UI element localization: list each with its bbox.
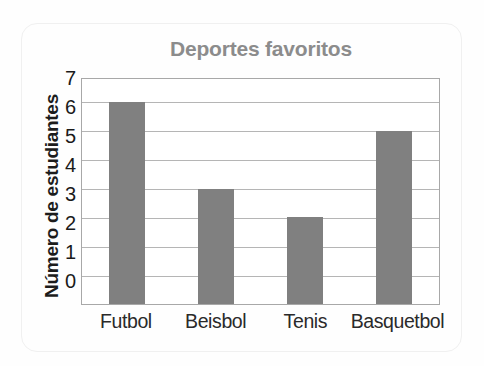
bar-slot-futbol bbox=[82, 79, 171, 304]
y-axis-tick-labels: 7 6 5 4 3 2 1 0 bbox=[52, 78, 76, 305]
x-tick-label-beisbol: Beisbol bbox=[171, 310, 260, 333]
bar-slot-beisbol bbox=[171, 79, 260, 304]
y-tick-label: 5 bbox=[54, 126, 76, 146]
x-tick-label-basquetbol: Basquetbol bbox=[351, 310, 440, 333]
bar-slot-tenis bbox=[261, 79, 350, 304]
y-tick-label: 3 bbox=[54, 184, 76, 204]
y-tick-label: 7 bbox=[54, 68, 76, 88]
bars-layer bbox=[82, 79, 439, 304]
y-tick-label: 4 bbox=[54, 155, 76, 175]
bar-slot-basquetbol bbox=[350, 79, 439, 304]
bar-basquetbol[interactable] bbox=[376, 131, 412, 304]
bar-tenis[interactable] bbox=[287, 217, 323, 304]
x-axis-category-labels: Futbol Beisbol Tenis Basquetbol bbox=[81, 310, 440, 342]
y-tick-label: 1 bbox=[54, 242, 76, 262]
x-tick-label-tenis: Tenis bbox=[261, 310, 350, 333]
y-tick-label: 6 bbox=[54, 97, 76, 117]
plot-area bbox=[81, 78, 440, 305]
bar-chart-figure: Deportes favoritos Número de estudiantes… bbox=[0, 0, 484, 366]
x-tick-label-futbol: Futbol bbox=[81, 310, 170, 333]
bar-futbol[interactable] bbox=[109, 102, 145, 304]
bar-beisbol[interactable] bbox=[198, 189, 234, 304]
y-tick-label: 0 bbox=[54, 271, 76, 291]
chart-title: Deportes favoritos bbox=[81, 37, 441, 61]
y-tick-label: 2 bbox=[54, 213, 76, 233]
